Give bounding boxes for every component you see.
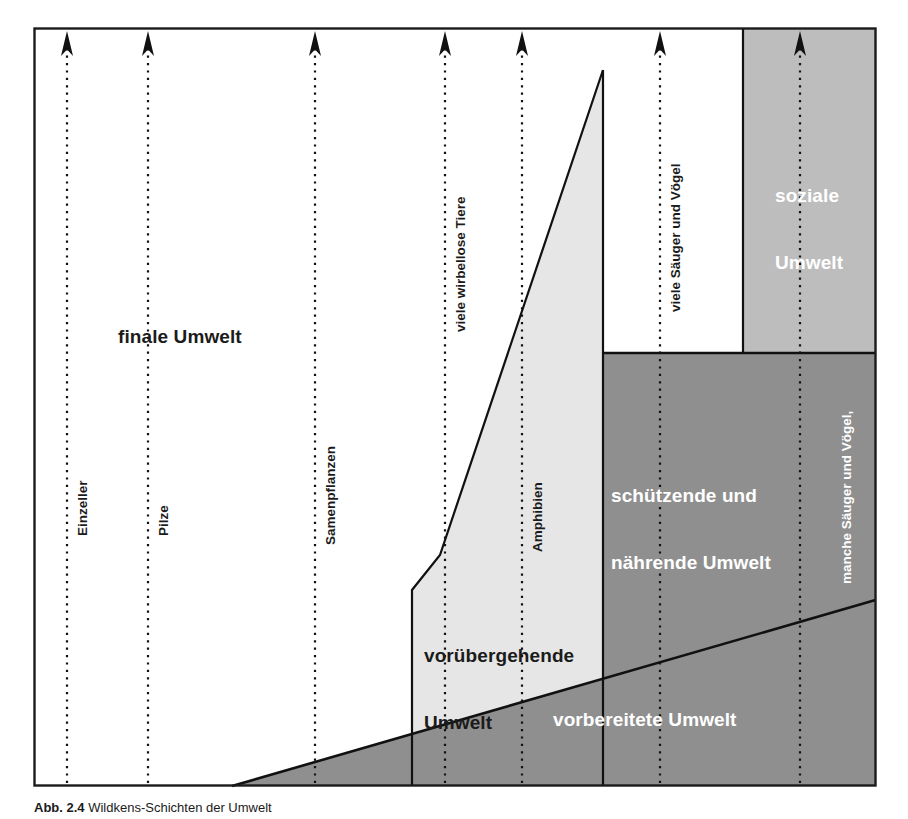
- arrow-label-samenpflanzen: Samenpflanzen: [323, 446, 339, 545]
- region-label-soziale-umwelt-line1: soziale: [775, 185, 843, 207]
- figure-caption-text: Wildkens-Schichten der Umwelt: [88, 800, 272, 815]
- region-label-soziale-umwelt-line2: Umwelt: [775, 252, 843, 274]
- arrow-label-pilze: Pilze: [156, 505, 172, 536]
- region-label-schuetzende-naehrende-umwelt: schützende und nährende Umwelt: [611, 440, 771, 619]
- region-label-voruebergehende-line2: Umwelt: [424, 712, 574, 734]
- arrow-label-viele-saeuger-und-voegel: viele Säuger und Vögel: [668, 163, 684, 312]
- figure-caption-number: Abb. 2.4: [34, 800, 85, 815]
- arrow-label-manche-line2: soziale Insekten: [886, 411, 902, 584]
- arrow-label-viele-wirbellose-tiere: viele wirbellose Tiere: [453, 196, 469, 332]
- arrow-label-manche-line1: manche Säuger und Vögel,: [839, 411, 855, 584]
- region-label-voruebergehende-line1: vorübergehende: [424, 645, 574, 667]
- arrow-label-manche-saeuger-voegel-soziale-insekten: manche Säuger und Vögel, soziale Insekte…: [808, 411, 908, 584]
- arrow-label-einzeller: Einzeller: [75, 480, 91, 536]
- region-label-voruebergehende-umwelt: vorübergehende Umwelt: [424, 600, 574, 779]
- region-label-schuetzende-line2: nährende Umwelt: [611, 552, 771, 574]
- region-label-schuetzende-line1: schützende und: [611, 485, 771, 507]
- region-label-soziale-umwelt: soziale Umwelt: [775, 140, 843, 319]
- figure-canvas: finale Umwelt soziale Umwelt schützende …: [0, 0, 908, 819]
- region-label-vorbereitete-umwelt: vorbereitete Umwelt: [553, 709, 737, 731]
- arrow-label-amphibien: Amphibien: [530, 482, 546, 552]
- region-label-finale-umwelt: finale Umwelt: [118, 326, 242, 348]
- figure-caption: Abb. 2.4 Wildkens-Schichten der Umwelt: [34, 800, 894, 815]
